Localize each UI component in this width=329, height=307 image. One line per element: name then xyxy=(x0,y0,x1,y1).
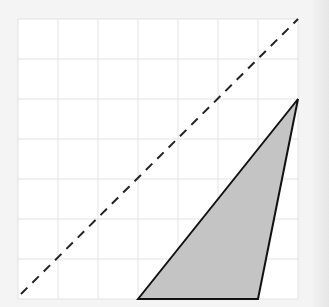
diagram-canvas xyxy=(0,0,329,307)
grid-diagram xyxy=(0,0,329,307)
